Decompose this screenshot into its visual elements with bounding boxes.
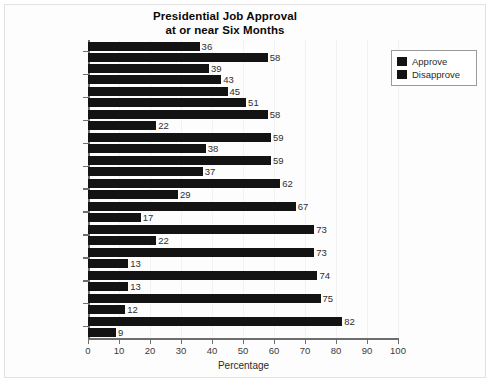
bar-approve	[88, 248, 314, 257]
bar-value-label: 36	[202, 42, 213, 51]
bar-disapprove	[88, 144, 206, 153]
x-axis-tick	[88, 339, 89, 344]
bar-value-label: 75	[323, 294, 334, 303]
bar-value-label: 74	[319, 271, 330, 280]
bar-approve	[88, 87, 228, 96]
x-axis-tick	[212, 339, 213, 344]
x-axis-tick	[150, 339, 151, 344]
bar-approve	[88, 225, 314, 234]
bar-disapprove	[88, 167, 203, 176]
bar-disapprove	[88, 121, 156, 130]
legend-item-disapprove: Disapprove	[397, 68, 476, 81]
bar-value-label: 38	[208, 144, 219, 153]
bar-value-label: 22	[158, 236, 169, 245]
bar-value-label: 9	[118, 328, 123, 337]
bar-disapprove	[88, 305, 125, 314]
bar-group: Clinton4551	[88, 87, 398, 110]
x-axis-tick-label: 80	[321, 345, 351, 356]
x-axis-label: Percentage	[88, 360, 399, 371]
x-axis-tick-label: 20	[135, 345, 165, 356]
x-axis-tick	[274, 339, 275, 344]
x-axis-tick-label: 30	[166, 345, 196, 356]
x-axis-tick	[336, 339, 337, 344]
legend-label-approve: Approve	[412, 56, 447, 67]
x-axis-tick	[181, 339, 182, 344]
presidential-job-approval-chart: Presidential Job Approval at or near Six…	[0, 0, 490, 382]
bar-value-label: 62	[282, 179, 293, 188]
bar-disapprove	[88, 259, 128, 268]
bar-value-label: 37	[205, 167, 216, 176]
bar-value-label: 59	[273, 156, 284, 165]
x-axis-tick-label: 0	[73, 345, 103, 356]
bar-value-label: 22	[158, 121, 169, 130]
bar-disapprove	[88, 236, 156, 245]
plot-area: Trump3658Ford3943Clinton4551Nixon5822G. …	[88, 40, 398, 338]
x-axis-tick-label: 70	[290, 345, 320, 356]
legend-swatch-disapprove	[397, 70, 407, 79]
chart-title: Presidential Job Approval at or near Six…	[0, 10, 450, 37]
bar-group: Trump3658	[88, 42, 398, 65]
bar-value-label: 73	[316, 225, 327, 234]
bar-value-label: 29	[180, 190, 191, 199]
bar-group: G. H. W. Bush7322	[88, 225, 398, 248]
bar-value-label: 73	[316, 248, 327, 257]
x-axis-tick-label: 40	[197, 345, 227, 356]
bar-approve	[88, 110, 268, 119]
bar-value-label: 82	[344, 317, 355, 326]
x-axis-tick	[398, 339, 399, 344]
bar-approve	[88, 156, 271, 165]
bar-value-label: 39	[211, 64, 222, 73]
bar-disapprove	[88, 98, 246, 107]
bar-value-label: 58	[270, 110, 281, 119]
x-axis-tick-label: 60	[259, 345, 289, 356]
bar-value-label: 51	[248, 98, 259, 107]
bar-group: Carter6717	[88, 202, 398, 225]
bar-approve	[88, 179, 280, 188]
x-axis-tick	[119, 339, 120, 344]
x-axis-tick-label: 100	[383, 345, 413, 356]
bar-value-label: 13	[130, 259, 141, 268]
bar-value-label: 67	[298, 202, 309, 211]
bar-approve	[88, 64, 209, 73]
bar-group: Reagan6229	[88, 179, 398, 202]
legend-item-approve: Approve	[397, 55, 476, 68]
bar-approve	[88, 202, 296, 211]
legend-label-disapprove: Disapprove	[412, 69, 460, 80]
bar-group: Kennedy7512	[88, 294, 398, 317]
bar-group: Eisenhower7313	[88, 248, 398, 271]
bar-group: Ford3943	[88, 64, 398, 87]
bar-value-label: 43	[223, 75, 234, 84]
bar-disapprove	[88, 53, 268, 62]
x-axis-tick	[367, 339, 368, 344]
bar-disapprove	[88, 75, 221, 84]
bar-group: Johnson7413	[88, 271, 398, 294]
bar-group: Truman829	[88, 317, 398, 340]
bar-disapprove	[88, 328, 116, 337]
bar-disapprove	[88, 190, 178, 199]
bar-group: Nixon5822	[88, 110, 398, 133]
chart-legend: Approve Disapprove	[391, 50, 477, 86]
bar-value-label: 58	[270, 53, 281, 62]
bar-value-label: 13	[130, 282, 141, 291]
x-axis-tick	[305, 339, 306, 344]
x-axis-tick	[243, 339, 244, 344]
x-axis-tick-label: 90	[352, 345, 382, 356]
bar-approve	[88, 317, 342, 326]
bar-value-label: 59	[273, 133, 284, 142]
bar-approve	[88, 294, 321, 303]
x-axis-tick-label: 50	[228, 345, 258, 356]
chart-title-line-2: at or near Six Months	[0, 24, 450, 38]
x-axis-tick-label: 10	[104, 345, 134, 356]
bar-value-label: 45	[230, 87, 241, 96]
bar-disapprove	[88, 213, 141, 222]
bar-approve	[88, 42, 200, 51]
bar-value-label: 17	[143, 213, 154, 222]
bar-disapprove	[88, 282, 128, 291]
bar-group: Obama5937	[88, 156, 398, 179]
legend-swatch-approve	[397, 57, 407, 66]
bar-value-label: 12	[127, 305, 138, 314]
bar-group: G. W. Bush5938	[88, 133, 398, 156]
bar-approve	[88, 133, 271, 142]
bar-approve	[88, 271, 317, 280]
chart-title-line-1: Presidential Job Approval	[0, 10, 450, 24]
